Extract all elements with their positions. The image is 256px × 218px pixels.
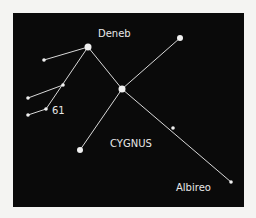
star-left-3: [26, 96, 30, 100]
star-albireo: [229, 180, 233, 184]
line-deneb-61: [46, 47, 88, 109]
star-sadr: [119, 86, 126, 93]
star-mid-right: [171, 126, 175, 130]
label-albireo: Albireo: [176, 182, 211, 193]
line-left1-deneb: [44, 47, 88, 60]
line-left4-61: [28, 109, 46, 115]
label-cygnus: CYGNUS: [110, 138, 152, 149]
line-sadr-topright: [122, 38, 180, 89]
star-left-2: [61, 83, 65, 87]
star-top-right: [177, 35, 183, 41]
star-deneb: [85, 44, 92, 51]
star-left-4: [26, 113, 30, 117]
line-sadr-albireo: [122, 89, 231, 182]
star-61-cygni: [44, 107, 48, 111]
label-deneb: Deneb: [98, 28, 131, 39]
label-61: 61: [52, 105, 65, 116]
constellation-diagram: Deneb 61 CYGNUS Albireo: [0, 0, 256, 218]
star-left-1: [42, 58, 46, 62]
line-deneb-sadr: [88, 47, 122, 89]
star-bottom-left: [77, 147, 83, 153]
